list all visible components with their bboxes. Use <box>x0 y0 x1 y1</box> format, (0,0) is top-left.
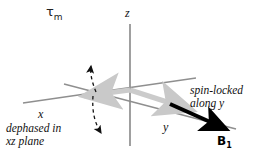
spinlocked-annotation-line2: along y <box>190 97 243 110</box>
axis-y-label: y <box>163 120 168 135</box>
spinlocked-annotation-line1: spin-locked <box>190 84 243 97</box>
magnetization-plus-y-vector <box>130 90 192 110</box>
spinlocked-annotation: spin-locked along y <box>190 84 243 110</box>
b1-label: B1 <box>217 134 232 150</box>
dephasing-arc-lower <box>93 96 101 133</box>
axis-z-label: z <box>125 6 130 21</box>
figure-canvas: τm z x y B1 dephased in xz plane spin-lo… <box>0 0 272 160</box>
dephased-annotation-line1: dephased in <box>6 122 61 135</box>
dephasing-arc-upper <box>91 66 96 92</box>
axis-x-label: x <box>38 107 43 122</box>
dephased-annotation: dephased in xz plane <box>6 122 61 148</box>
dephased-annotation-line2: xz plane <box>6 135 61 148</box>
tau-m-label: τm <box>46 4 63 22</box>
